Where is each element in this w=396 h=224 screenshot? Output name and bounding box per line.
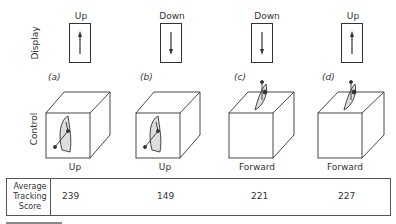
display-box-b [160, 23, 182, 63]
display-box-c [251, 23, 273, 63]
cube-side-lever-b [136, 92, 200, 158]
display-row-label: Display [30, 26, 40, 59]
figure-caption-clipped [6, 218, 66, 224]
display-direction-d: Up [338, 11, 368, 21]
arrow-down-icon [161, 24, 181, 62]
table-header: Average Tracking Score [10, 182, 50, 212]
control-diagrams [0, 80, 396, 160]
score-a: 239 [62, 191, 79, 201]
table-divider [50, 179, 51, 215]
display-box-d [341, 23, 363, 63]
arrow-up-icon [342, 24, 362, 62]
control-direction-d: Forward [320, 162, 370, 172]
display-direction-a: Up [66, 11, 96, 21]
cube-top-lever-d [318, 81, 384, 159]
score-table: Average Tracking Score 239 149 221 227 [6, 178, 391, 216]
cube-side-lever-a [46, 92, 110, 158]
score-c: 221 [251, 191, 268, 201]
score-d: 227 [338, 191, 355, 201]
display-direction-b: Down [152, 11, 192, 21]
score-b: 149 [157, 191, 174, 201]
control-direction-b: Up [150, 162, 180, 172]
arrow-up-icon [70, 24, 90, 62]
arrow-down-icon [252, 24, 272, 62]
cube-top-lever-c [229, 81, 294, 159]
display-box-a [69, 23, 91, 63]
display-direction-c: Down [247, 11, 287, 21]
control-direction-a: Up [60, 162, 90, 172]
control-direction-c: Forward [232, 162, 282, 172]
